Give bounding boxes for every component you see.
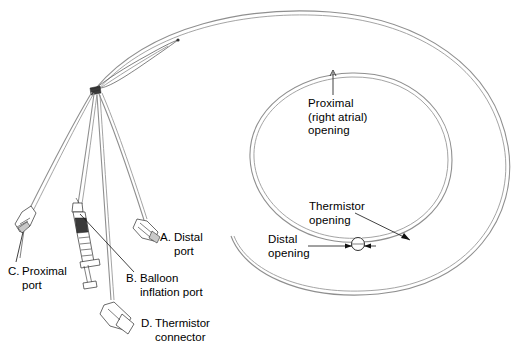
label-distal-opening: Distal opening [268, 233, 310, 260]
label-distal-port: A. Distal port [160, 231, 203, 258]
lumen-proximal [28, 92, 94, 213]
label-balloon-inflation-port: B. Balloon inflation port [126, 272, 203, 299]
label-thermistor-opening: Thermistor opening [309, 200, 365, 227]
label-thermistor-connector: D. Thermistor connector [141, 317, 210, 344]
label-thermistor-connector-text: Thermistor connector [155, 317, 210, 344]
proximal-port-connector [15, 206, 36, 258]
label-proximal-opening: Proximal (right atrial) opening [308, 97, 368, 138]
leader-proximal-port [16, 232, 23, 262]
catheter-illustration: .tube { fill:none; stroke:#8f8f8f; strok… [0, 0, 520, 352]
catheter-diagram: .tube { fill:none; stroke:#8f8f8f; strok… [0, 0, 520, 352]
label-balloon-inflation-port-text: Balloon inflation port [140, 272, 203, 299]
label-proximal-port-text: Proximal port [22, 265, 67, 292]
distal-balloon [352, 238, 365, 251]
label-distal-port-text: Distal port [174, 231, 203, 258]
leader-distal-opening [308, 244, 376, 249]
catheter-proximal-balloon [96, 40, 178, 89]
label-thermistor-connector-key: D. [141, 317, 155, 331]
distal-port-connector [133, 219, 160, 243]
leader-proximal-opening [330, 70, 336, 95]
label-proximal-port: C. Proximal port [8, 265, 67, 292]
catheter-marker [176, 38, 179, 41]
label-balloon-inflation-port-key: B. [126, 272, 140, 286]
label-proximal-port-key: C. [8, 265, 22, 279]
balloon-inflation-syringe [72, 198, 100, 289]
lumen-distal [99, 93, 147, 220]
label-distal-port-key: A. [160, 231, 174, 245]
thermistor-connector [100, 302, 134, 334]
